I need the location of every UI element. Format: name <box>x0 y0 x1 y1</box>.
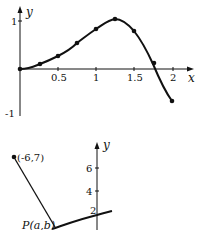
y-label-2: y <box>102 138 110 152</box>
segment-line <box>15 159 55 227</box>
y-arrow-icon-2 <box>95 142 100 149</box>
x-tick-0.5: 0.5 <box>51 72 67 83</box>
point-neg6-7 <box>12 155 17 160</box>
p-label: P(a,b) <box>21 219 55 230</box>
figure: y x 1 -1 0.5 1 1.5 2 y 6 4 2 (-6,7) P(a,… <box>0 0 206 230</box>
y-tick-6: 6 <box>86 163 92 174</box>
x-tick-1.5: 1.5 <box>127 72 143 83</box>
y-tick-neg1: -1 <box>5 108 15 119</box>
x-tick-1: 1 <box>93 72 99 83</box>
y-label: y <box>25 5 33 19</box>
top-chart: y x 1 -1 0.5 1 1.5 2 <box>5 5 195 119</box>
y-tick-4: 4 <box>86 186 92 197</box>
x-tick-2: 2 <box>170 72 176 83</box>
y-arrow-icon <box>18 6 23 13</box>
bottom-diagram: y 6 4 2 (-6,7) P(a,b) <box>12 138 112 230</box>
x-label: x <box>188 71 195 85</box>
y-tick-1: 1 <box>11 16 17 27</box>
curve-segment <box>52 211 112 229</box>
y-tick-2: 2 <box>90 205 96 216</box>
point-label: (-6,7) <box>17 152 44 163</box>
